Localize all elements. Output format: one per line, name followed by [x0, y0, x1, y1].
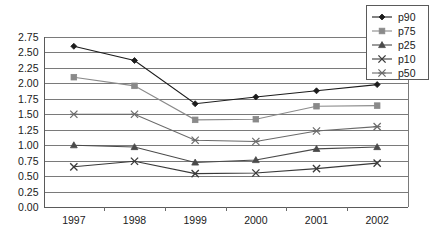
- y-axis-tick-label: 0.50: [18, 170, 39, 182]
- data-point-p50-1997: [70, 111, 77, 118]
- y-axis-tick-label: 1.50: [18, 108, 39, 120]
- data-point-p90-2001: [314, 88, 320, 94]
- x-axis-tick-label: 1998: [123, 214, 147, 226]
- series-p10: [70, 158, 381, 178]
- y-axis-tick-label: 2.75: [18, 31, 39, 43]
- data-point-p90-1997: [71, 43, 77, 49]
- data-point-p90-2002: [374, 82, 380, 88]
- data-point-p75-1997: [71, 74, 77, 80]
- percentile-line-chart: 0.000.250.500.751.001.251.501.752.002.25…: [0, 0, 434, 243]
- y-axis-tick-label: 0.25: [18, 186, 39, 198]
- data-point-p75-2001: [314, 103, 320, 109]
- x-axis-tick-label: 1997: [62, 214, 86, 226]
- data-point-p50-1998: [131, 111, 138, 118]
- legend-label-p25: p25: [398, 39, 416, 51]
- chart-legend[interactable]: p90p75p25p10p50: [367, 6, 429, 80]
- series-line-p50: [74, 114, 377, 141]
- y-axis-tick-labels: 0.000.250.500.751.001.251.501.752.002.25…: [18, 31, 39, 213]
- x-axis-tick-label: 2001: [305, 214, 329, 226]
- gridlines-group: [44, 38, 408, 208]
- y-axis-tick-label: 0.00: [18, 201, 39, 213]
- x-axis-tick-label: 1999: [183, 214, 207, 226]
- plot-area-border: [45, 37, 409, 207]
- legend-marker-square-icon: [379, 28, 385, 34]
- y-axis-tick-label: 1.25: [18, 124, 39, 136]
- chart-canvas: 0.000.250.500.751.001.251.501.752.002.25…: [0, 0, 434, 243]
- y-axis-tick-label: 2.00: [18, 77, 39, 89]
- data-point-p50-2002: [374, 123, 381, 130]
- data-point-p50-2001: [313, 127, 320, 134]
- series-line-p10: [74, 161, 377, 173]
- data-point-p50-1999: [192, 137, 199, 144]
- data-point-p50-2000: [252, 138, 259, 145]
- legend-label-p50: p50: [398, 67, 416, 79]
- x-axis-tick-label: 2000: [244, 214, 268, 226]
- series-p50: [70, 111, 381, 145]
- series-p75: [71, 74, 380, 122]
- series-line-p90: [74, 46, 377, 103]
- legend-label-p10: p10: [398, 53, 416, 65]
- y-axis-tick-label: 1.00: [18, 139, 39, 151]
- data-point-p75-2002: [374, 103, 380, 109]
- legend-label-p75: p75: [398, 25, 416, 37]
- data-point-p75-1998: [132, 83, 138, 89]
- x-axis-tick-labels: 199719981999200020012002: [62, 214, 389, 226]
- data-point-p75-1999: [192, 117, 198, 123]
- series-group: [70, 43, 381, 177]
- series-line-p25: [74, 145, 377, 162]
- y-axis-tick-label: 1.75: [18, 93, 39, 105]
- legend-label-p90: p90: [398, 11, 416, 23]
- data-point-p75-2000: [253, 116, 259, 122]
- y-axis-tick-label: 2.25: [18, 62, 39, 74]
- x-axis-tick-label: 2002: [365, 214, 389, 226]
- y-axis-tick-label: 0.75: [18, 155, 39, 167]
- y-axis-tick-label: 2.50: [18, 46, 39, 58]
